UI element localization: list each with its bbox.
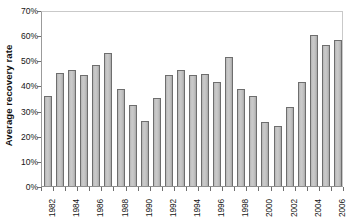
bar: [310, 35, 318, 186]
y-axis-tick-label: 30%: [21, 107, 38, 117]
bar: [68, 70, 76, 186]
x-axis-tick-mark: [343, 187, 344, 191]
y-axis-tick-label: 50%: [21, 56, 38, 66]
bar: [117, 89, 125, 186]
bar: [129, 105, 137, 186]
bar: [141, 121, 149, 186]
y-axis-tick-label: 10%: [21, 157, 38, 167]
bar: [334, 40, 342, 186]
y-axis-title-text: Average recovery rate: [4, 44, 15, 146]
bar: [92, 65, 100, 186]
y-axis-tick-label: 40%: [21, 81, 38, 91]
average-recovery-rate-bar-chart: Average recovery rate 0%10%20%30%40%50%6…: [0, 0, 348, 219]
bar: [165, 75, 173, 186]
figure-caption: [14, 214, 344, 219]
bar: [104, 53, 112, 186]
bar: [261, 122, 269, 186]
y-axis-tick-label: 20%: [21, 132, 38, 142]
y-axis-tick-label: 70%: [21, 6, 38, 16]
bar: [274, 126, 282, 186]
bar: [286, 107, 294, 186]
bar: [56, 73, 64, 186]
bars-layer: [42, 12, 342, 186]
bar: [298, 82, 306, 186]
plot-area: [41, 11, 343, 187]
bar: [201, 74, 209, 186]
bar: [322, 45, 330, 186]
bar: [177, 70, 185, 186]
bar: [44, 96, 52, 186]
y-axis-tick-label: 60%: [21, 31, 38, 41]
bar: [249, 96, 257, 187]
bar: [153, 98, 161, 186]
bar: [189, 75, 197, 186]
bar: [80, 75, 88, 186]
bar: [213, 82, 221, 186]
bar: [237, 89, 245, 186]
bar: [225, 57, 233, 186]
